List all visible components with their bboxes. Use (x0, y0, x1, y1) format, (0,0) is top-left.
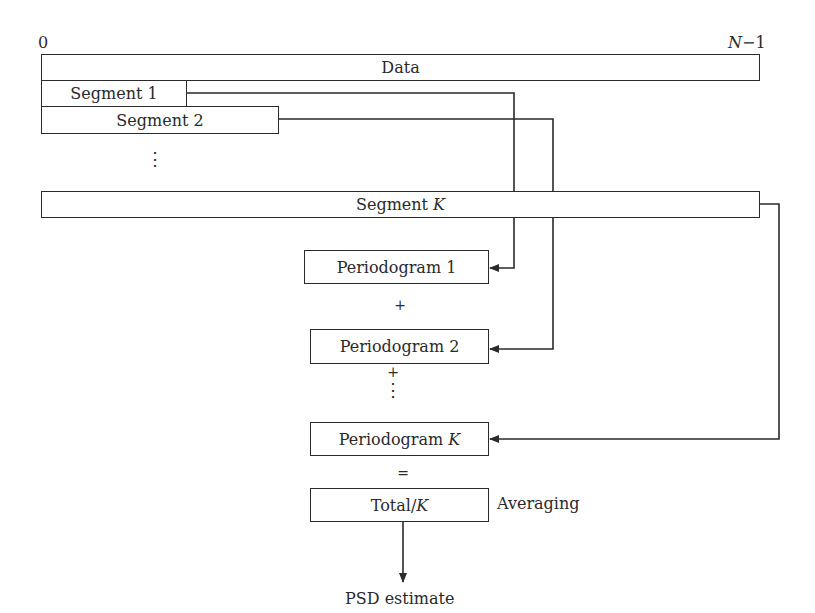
index-start-label: 0 (38, 35, 48, 51)
data-bar: Data (41, 54, 760, 81)
segment-k-label: Segment K (356, 195, 445, 214)
periodogram-2-label: Periodogram 2 (340, 337, 460, 356)
segment-2-label: Segment 2 (116, 111, 203, 130)
segment-1-box: Segment 1 (41, 80, 187, 107)
periodogram-k-label: Periodogram K (339, 430, 460, 449)
segment-1-label: Segment 1 (70, 84, 157, 103)
averaging-label: Averaging (497, 496, 580, 512)
index-end-suffix: −1 (742, 33, 766, 52)
wire-segment2-to-periodogram2 (278, 119, 553, 349)
total-over-k-box: Total/K (310, 488, 489, 522)
periodogram-1-box: Periodogram 1 (304, 250, 489, 284)
wire-segmentK-to-periodogramK (490, 204, 779, 439)
total-over-k-label: Total/K (371, 496, 429, 515)
psd-estimate-label: PSD estimate (345, 591, 454, 607)
periodogram-k-box: Periodogram K (310, 422, 489, 456)
segment-2-box: Segment 2 (41, 106, 279, 134)
index-end-var: N (728, 33, 742, 52)
segment-k-box: Segment K (41, 191, 760, 218)
periodogram-2-box: Periodogram 2 (310, 329, 489, 364)
periodogram-1-label: Periodogram 1 (337, 258, 457, 277)
data-bar-label: Data (381, 58, 419, 77)
equals-operator: = (397, 466, 409, 480)
plus-operator-1: + (394, 298, 406, 312)
segment-ellipsis: ⋮ (146, 150, 164, 168)
plus-operator-2: + (387, 365, 399, 379)
index-end-label: N−1 (728, 35, 766, 51)
periodogram-ellipsis: ⋮ (384, 381, 402, 399)
